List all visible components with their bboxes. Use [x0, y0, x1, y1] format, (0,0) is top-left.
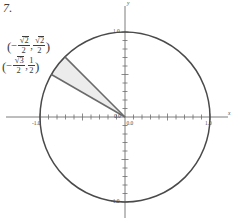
fraction-ay-numerator: √2 — [33, 36, 45, 46]
problem-number: 7. — [3, 1, 12, 16]
x-tick-label-pos1: 1.0 — [205, 120, 212, 126]
fraction-bx: √32 — [13, 56, 25, 75]
shaded-sector — [51, 57, 125, 117]
fraction-ax: √22 — [18, 36, 30, 55]
fraction-by-denominator: 2 — [28, 66, 34, 75]
point-label-b: (−√32,12) — [2, 56, 39, 75]
fraction-ay-denominator: 2 — [33, 46, 45, 55]
radical-ax: √2 — [19, 36, 29, 45]
y-tick-label-zero: 0.0 — [114, 113, 121, 119]
x-axis-label: x — [228, 110, 230, 116]
radical-bar-ax — [22, 36, 29, 37]
fraction-bx-numerator: √3 — [13, 56, 25, 66]
y-tick-label-neg1: -1.0 — [111, 198, 120, 204]
minus-sign-a: − — [11, 40, 17, 51]
fraction-ax-numerator: √2 — [18, 36, 30, 46]
paren-close-b: ) — [35, 59, 39, 74]
radical-bar-ay — [38, 36, 45, 37]
fraction-ax-denominator: 2 — [18, 46, 30, 55]
y-tick-label-pos1: 1.0 — [113, 28, 120, 34]
fraction-bx-denominator: 2 — [13, 66, 25, 75]
fraction-by: 12 — [28, 56, 34, 75]
radical-ay: √2 — [34, 36, 44, 45]
minus-sign-b: − — [6, 60, 12, 71]
radical-bar-bx — [17, 56, 24, 57]
radical-bx: √3 — [14, 56, 24, 65]
x-tick-label-neg1: -1.0 — [32, 120, 41, 126]
fraction-ay: √22 — [33, 36, 45, 55]
paren-close-a: ) — [46, 39, 50, 54]
point-label-a: (−√22,√22) — [7, 36, 50, 55]
x-tick-label-zero: 0.0 — [127, 120, 134, 126]
y-axis-label: y — [127, 0, 129, 6]
